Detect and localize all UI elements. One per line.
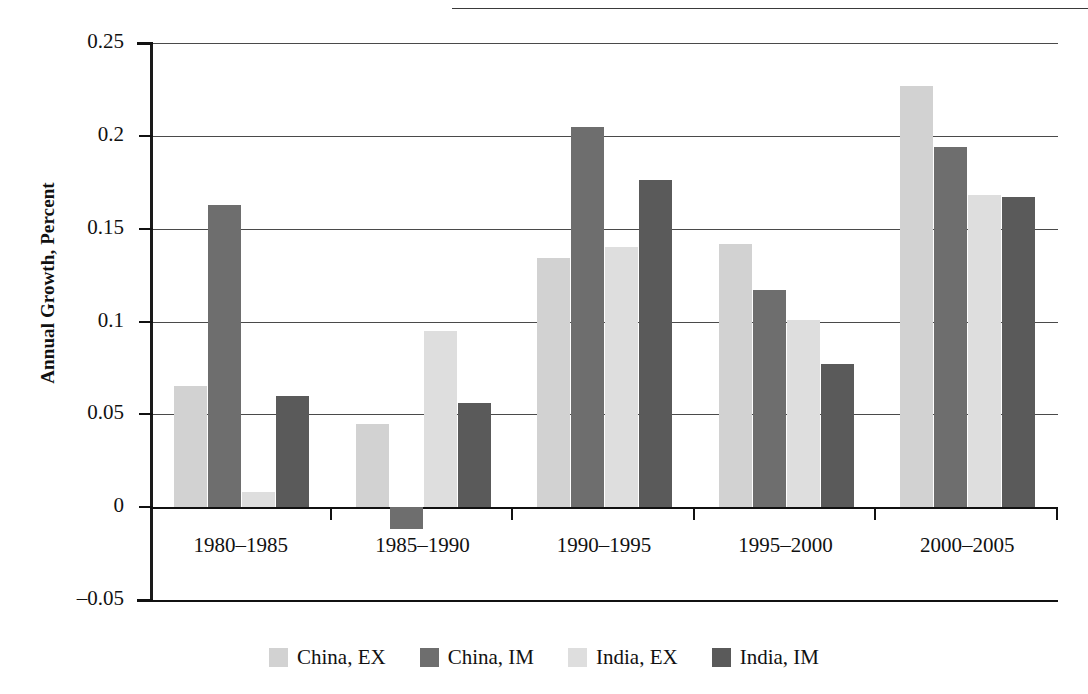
x-axis-tick-label: 1985–1990 [332, 533, 514, 558]
x-axis-tick-label: 2000–2005 [876, 533, 1058, 558]
y-axis-tick [139, 228, 153, 230]
bar [242, 492, 275, 507]
bar [208, 205, 241, 508]
bar [458, 403, 491, 507]
bar [719, 244, 752, 508]
legend-swatch-icon [269, 648, 288, 667]
bar [787, 320, 820, 508]
legend-label: China, IM [448, 645, 534, 670]
bar [639, 180, 672, 507]
y-axis-title: Annual Growth, Percent [37, 133, 59, 433]
category-tick [511, 507, 513, 520]
legend-item: India, IM [712, 645, 819, 670]
category-tick [330, 507, 332, 520]
y-axis-tick-label: 0.05 [0, 400, 124, 425]
bar [605, 247, 638, 507]
bar [934, 147, 967, 507]
y-axis-tick-label: –0.05 [0, 586, 124, 611]
bar [174, 386, 207, 507]
bar [390, 507, 423, 529]
x-axis-tick-label: 1980–1985 [150, 533, 332, 558]
legend-label: China, EX [297, 645, 386, 670]
legend-swatch-icon [712, 648, 731, 667]
top-divider-rule [452, 8, 1088, 9]
bar [424, 331, 457, 507]
bar [1002, 197, 1035, 507]
legend-swatch-icon [420, 648, 439, 667]
category-tick [693, 507, 695, 520]
legend-label: India, EX [596, 645, 678, 670]
legend-item: India, EX [568, 645, 678, 670]
bar [968, 195, 1001, 507]
y-axis-tick-label: 0.1 [0, 308, 124, 333]
bar [753, 290, 786, 507]
category-tick [874, 507, 876, 520]
chart-legend: China, EXChina, IMIndia, EXIndia, IM [0, 645, 1088, 670]
category-tick [1056, 507, 1058, 520]
y-axis-tick-label: 0 [0, 493, 124, 518]
y-axis-tick [139, 413, 153, 415]
y-axis-tick [139, 135, 153, 137]
x-axis-tick-label: 1990–1995 [513, 533, 695, 558]
bar [276, 396, 309, 507]
bar [537, 258, 570, 507]
y-axis-tick-label: 0.2 [0, 122, 124, 147]
chart-figure: Annual Growth, Percent 0.250.20.150.10.0… [0, 0, 1088, 694]
legend-swatch-icon [568, 648, 587, 667]
y-axis-tick [137, 599, 153, 602]
x-axis-tick-label: 1995–2000 [695, 533, 877, 558]
bar [821, 364, 854, 507]
y-axis-tick-label: 0.15 [0, 215, 124, 240]
y-axis-tick [139, 506, 153, 508]
legend-item: China, IM [420, 645, 534, 670]
gridline [150, 43, 1058, 44]
y-axis-tick [137, 42, 153, 45]
bar [356, 424, 389, 508]
gridline [150, 600, 1058, 602]
legend-item: China, EX [269, 645, 386, 670]
y-axis-tick-label: 0.25 [0, 29, 124, 54]
legend-label: India, IM [740, 645, 819, 670]
bar [571, 127, 604, 508]
gridline [150, 507, 1058, 509]
bar [900, 86, 933, 507]
y-axis-tick [139, 321, 153, 323]
plot-area [150, 43, 1058, 600]
